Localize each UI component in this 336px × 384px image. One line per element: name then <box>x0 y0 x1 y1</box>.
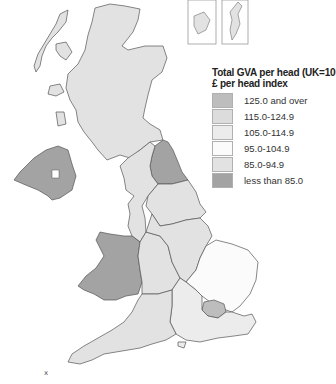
legend-label: 115.0-124.9 <box>244 111 294 122</box>
legend-label: 95.0-104.9 <box>244 143 289 154</box>
legend-swatch <box>212 93 233 108</box>
region-scotland[interactable] <box>66 4 167 160</box>
region-scotland-islands-mull <box>48 84 64 96</box>
legend-row-115-124: 115.0-124.9 <box>212 108 336 124</box>
legend-swatch <box>212 141 233 156</box>
legend-swatch <box>212 125 233 140</box>
legend-label: 125.0 and over <box>244 95 307 106</box>
scilly-marker: x <box>44 369 48 377</box>
lough-neagh <box>52 170 59 178</box>
legend-label: less than 85.0 <box>244 175 303 186</box>
legend-label: 85.0-94.9 <box>244 159 284 170</box>
legend-row-95-104: 95.0-104.9 <box>212 140 336 156</box>
region-scotland-islands-skye <box>56 42 72 60</box>
region-scotland-isles <box>34 10 68 72</box>
legend-title: Total GVA per head (UK=100) <box>212 67 336 78</box>
legend: Total GVA per head (UK=100) £ per head i… <box>212 67 336 188</box>
region-north-east[interactable] <box>150 140 188 184</box>
region-scotland-islands-islay <box>56 112 66 126</box>
region-wales[interactable] <box>78 232 142 300</box>
inset-shetland <box>222 0 248 44</box>
region-south-west[interactable] <box>68 290 176 364</box>
legend-swatch <box>212 109 233 124</box>
isle-of-wight <box>178 342 186 348</box>
region-northern-ireland[interactable] <box>14 146 76 200</box>
legend-label: 105.0-114.9 <box>244 127 294 138</box>
inset-orkney <box>188 0 216 44</box>
legend-row-under-85: less than 85.0 <box>212 172 336 188</box>
legend-row-85-94: 85.0-94.9 <box>212 156 336 172</box>
legend-rows: 125.0 and over 115.0-124.9 105.0-114.9 9… <box>212 92 336 188</box>
legend-swatch <box>212 157 233 172</box>
legend-swatch <box>212 173 233 188</box>
uk-regional-map <box>0 0 336 384</box>
legend-row-105-114: 105.0-114.9 <box>212 124 336 140</box>
legend-row-125-plus: 125.0 and over <box>212 92 336 108</box>
legend-subtitle: £ per head index <box>212 78 336 89</box>
